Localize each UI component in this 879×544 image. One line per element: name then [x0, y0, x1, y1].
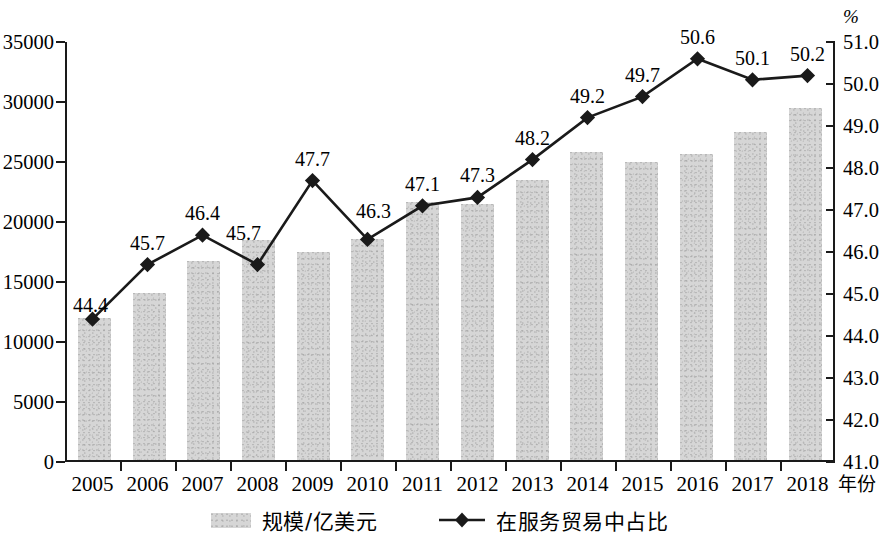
bar: [570, 152, 603, 460]
right-axis-tick-label: 48.0: [843, 158, 879, 179]
bar: [406, 202, 439, 460]
legend-item-bar: 规模/亿美元: [211, 505, 377, 535]
chart-legend: 规模/亿美元 在服务贸易中占比: [0, 505, 879, 535]
data-label: 47.1: [405, 174, 440, 194]
right-axis-tick: [826, 335, 835, 337]
data-label: 44.4: [73, 295, 108, 315]
legend-label-bar: 规模/亿美元: [262, 505, 377, 535]
right-axis-tick-label: 51.0: [843, 32, 879, 53]
bar: [461, 204, 494, 460]
bar-slot: [341, 42, 396, 460]
right-axis-tick: [826, 293, 835, 295]
left-axis-tick-label: 35000: [3, 32, 54, 53]
left-axis-tick: [56, 341, 65, 343]
bar: [516, 180, 549, 460]
bar: [297, 252, 330, 460]
bar-slot: [286, 42, 341, 460]
right-axis-tick: [826, 209, 835, 211]
data-label: 50.2: [790, 44, 825, 64]
x-axis-title: 年份: [838, 470, 876, 498]
bar-slot: [669, 42, 724, 460]
x-axis-tick-label: 2015: [615, 470, 670, 500]
data-label: 47.3: [460, 165, 495, 185]
right-axis-unit: %: [843, 6, 859, 28]
right-axis-tick: [826, 125, 835, 127]
left-axis-tick: [56, 281, 65, 283]
plot-area: [65, 42, 835, 462]
bar-swatch-icon: [211, 513, 251, 528]
right-axis-tick-label: 46.0: [843, 242, 879, 263]
x-axis-tick-label: 2007: [175, 470, 230, 500]
right-axis-tick: [826, 41, 835, 43]
left-axis-tick: [56, 401, 65, 403]
data-label: 49.2: [570, 86, 605, 106]
x-axis-tick-label: 2017: [725, 470, 780, 500]
right-axis-tick: [826, 167, 835, 169]
bar: [789, 108, 822, 460]
bar: [78, 318, 111, 460]
x-axis-tick-label: 2006: [120, 470, 175, 500]
bar-slot: [614, 42, 669, 460]
right-axis-tick: [826, 419, 835, 421]
bar: [625, 162, 658, 460]
right-axis-tick-label: 50.0: [843, 74, 879, 95]
right-axis-tick-label: 45.0: [843, 284, 879, 305]
bar-slot: [505, 42, 560, 460]
x-axis-tick-label: 2018: [780, 470, 835, 500]
right-axis-tick-label: 43.0: [843, 368, 879, 389]
bar: [734, 132, 767, 460]
bar: [187, 261, 220, 460]
left-axis-tick: [56, 41, 65, 43]
bar-slot: [67, 42, 122, 460]
right-axis-tick-label: 47.0: [843, 200, 879, 221]
left-axis-tick-label: 15000: [3, 272, 54, 293]
bar-slot: [395, 42, 450, 460]
data-label: 50.1: [735, 48, 770, 68]
bar-slot: [176, 42, 231, 460]
bar-slot: [450, 42, 505, 460]
line-diamond-icon: [439, 511, 485, 529]
left-axis-tick-label: 30000: [3, 92, 54, 113]
data-label: 49.7: [625, 65, 660, 85]
x-axis-tick-label: 2011: [395, 470, 450, 500]
right-axis-tick: [826, 83, 835, 85]
x-axis-tick-label: 2013: [505, 470, 560, 500]
right-axis-tick-label: 42.0: [843, 410, 879, 431]
data-label: 46.3: [356, 201, 391, 221]
right-axis-tick: [826, 377, 835, 379]
left-axis-tick: [56, 221, 65, 223]
left-axis-tick-label: 5000: [13, 392, 54, 413]
x-axis-tick-label: 2014: [560, 470, 615, 500]
bar-series: [67, 42, 833, 460]
bar-slot: [231, 42, 286, 460]
legend-item-line: 在服务贸易中占比: [439, 505, 668, 535]
data-label: 47.7: [295, 149, 330, 169]
left-axis-tick: [56, 461, 65, 463]
right-axis-tick-label: 49.0: [843, 116, 879, 137]
x-axis-tick-label: 2005: [65, 470, 120, 500]
left-axis-tick-label: 25000: [3, 152, 54, 173]
left-axis-tick-label: 10000: [3, 332, 54, 353]
x-axis-tick-label: 2016: [670, 470, 725, 500]
left-axis-tick-label: 0: [44, 452, 54, 473]
x-axis-tick-label: 2008: [230, 470, 285, 500]
chart-figure: % 0500010000150002000025000300003500041.…: [0, 0, 879, 544]
bar: [133, 293, 166, 460]
data-label: 50.6: [680, 27, 715, 47]
bar: [242, 240, 275, 460]
left-axis-tick: [56, 101, 65, 103]
bar-slot: [778, 42, 833, 460]
x-axis-tick-label: 2010: [340, 470, 395, 500]
legend-label-line: 在服务贸易中占比: [496, 505, 668, 535]
data-label: 46.4: [185, 203, 220, 223]
x-axis-labels: 2005200620072008200920102011201220132014…: [65, 470, 835, 500]
bar-slot: [724, 42, 779, 460]
data-label: 45.7: [130, 233, 165, 253]
left-axis-tick-label: 20000: [3, 212, 54, 233]
right-axis-tick: [826, 251, 835, 253]
data-label: 45.7: [226, 223, 261, 243]
right-axis-tick: [826, 461, 835, 463]
bar: [351, 239, 384, 460]
x-axis-tick-label: 2012: [450, 470, 505, 500]
data-label: 48.2: [515, 128, 550, 148]
